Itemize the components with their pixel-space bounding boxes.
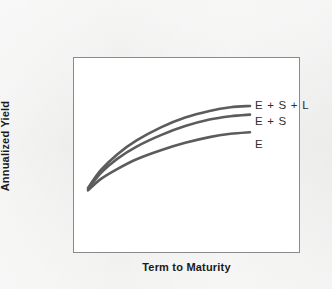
y-axis-title: Annualized Yield [0, 90, 11, 202]
series-label-e-plus-s-plus-l: E + S + L [255, 100, 309, 112]
curve-e-plus-s [88, 115, 250, 190]
series-label-e-plus-s: E + S [255, 116, 287, 128]
curve-group [88, 106, 250, 190]
x-axis-title: Term to Maturity [73, 262, 300, 273]
yield-curve-figure: E + S + L E + S E Annualized Yield Term … [0, 0, 332, 289]
curves-svg [0, 0, 332, 289]
series-label-e: E [255, 139, 263, 151]
